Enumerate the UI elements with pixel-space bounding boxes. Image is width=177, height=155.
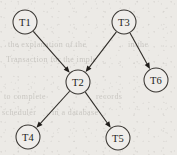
edge-line — [130, 33, 148, 65]
arrowhead-icon — [86, 66, 92, 73]
graph-canvas: T1T3T2T6T4T5 — [0, 0, 177, 155]
node-t2[interactable]: T2 — [66, 70, 90, 94]
node-t6[interactable]: T6 — [144, 68, 168, 92]
edge-line — [85, 92, 108, 124]
node-label: T5 — [112, 133, 124, 144]
node-label: T6 — [150, 75, 162, 86]
node-label: T2 — [72, 77, 84, 88]
arrowhead-icon — [105, 121, 111, 128]
node-t1[interactable]: T1 — [13, 10, 37, 34]
edge-line — [40, 91, 70, 124]
node-t5[interactable]: T5 — [106, 126, 130, 150]
edge-t1-to-t2 — [33, 31, 69, 72]
nodes-group: T1T3T2T6T4T5 — [13, 10, 168, 150]
edge-t3-to-t6 — [130, 33, 150, 69]
edge-line — [89, 32, 117, 68]
node-label: T4 — [22, 132, 35, 143]
edge-t3-to-t2 — [86, 32, 117, 72]
node-label: T1 — [19, 17, 31, 28]
edge-t2-to-t5 — [85, 92, 110, 128]
edges-group — [33, 31, 150, 127]
node-label: T3 — [118, 17, 130, 28]
node-t3[interactable]: T3 — [112, 10, 136, 34]
edge-line — [33, 31, 66, 69]
edge-t2-to-t4 — [36, 91, 69, 128]
graph-diagram: the explanation of thein theTransaction … — [0, 0, 177, 155]
node-t4[interactable]: T4 — [16, 125, 40, 149]
